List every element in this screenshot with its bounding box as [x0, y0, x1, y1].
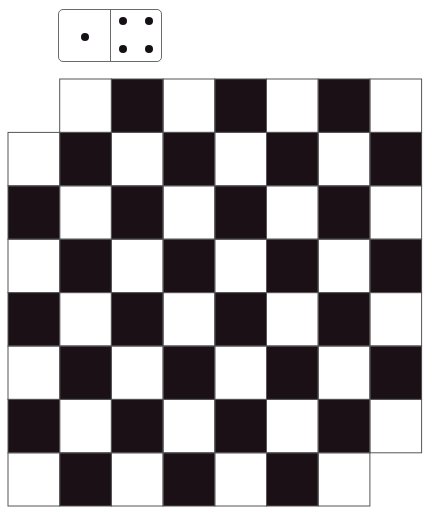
domino-divider: [110, 10, 111, 61]
domino-tile[interactable]: [58, 9, 162, 62]
pip-icon: [81, 33, 89, 41]
board-grid-lines: [0, 0, 428, 508]
pip-icon: [119, 17, 127, 25]
pip-icon: [145, 17, 153, 25]
pip-icon: [119, 45, 127, 53]
checkerboard: [0, 0, 428, 508]
pip-icon: [145, 45, 153, 53]
